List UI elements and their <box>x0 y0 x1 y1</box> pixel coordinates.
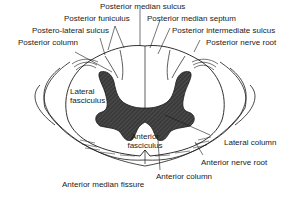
label-anterior-column: Anterior column <box>156 172 212 181</box>
label-posterior-column: Posterior column <box>18 38 78 47</box>
label-postero-lateral-sulcus: Postero-lateral sulcus <box>32 26 109 35</box>
label-lateral-fasciculus: Lateral fasciculus <box>70 87 105 105</box>
label-lateral-fasciculus-line2: fasciculus <box>70 96 105 105</box>
label-posterior-median-sulcus: Posterior median sulcus <box>100 2 185 11</box>
label-anterior-fasciculus: Anterior fasciculus <box>120 132 170 150</box>
label-posterior-intermediate-sulcus: Posterior intermediate sulcus <box>172 26 275 35</box>
label-anterior-fasciculus-line2: fasciculus <box>120 141 170 150</box>
label-posterior-nerve-root: Posterior nerve root <box>206 38 276 47</box>
label-anterior-nerve-root: Anterior nerve root <box>201 158 267 167</box>
label-posterior-median-septum: Posterior median septum <box>147 14 236 23</box>
label-posterior-funiculus: Posterior funiculus <box>64 14 130 23</box>
label-anterior-fasciculus-line1: Anterior <box>120 132 170 141</box>
label-anterior-median-fissure: Anterior median fissure <box>62 180 144 189</box>
label-lateral-fasciculus-line1: Lateral <box>70 87 105 96</box>
label-lateral-column: Lateral column <box>224 138 276 147</box>
